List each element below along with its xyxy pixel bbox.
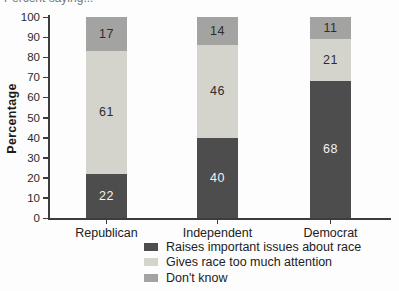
x-axis-category-label: Independent <box>158 226 278 240</box>
y-tick-label: 100 <box>12 10 40 24</box>
y-tick <box>43 137 48 139</box>
legend-label: Raises important issues about race <box>166 240 361 254</box>
y-tick-label: 20 <box>12 171 40 185</box>
legend-swatch <box>144 243 158 251</box>
y-tick-label: 40 <box>12 131 40 145</box>
bar-value-label: 40 <box>197 138 238 218</box>
y-tick <box>43 197 48 199</box>
x-axis-category-label: Democrat <box>271 226 391 240</box>
bar-value-label: 14 <box>197 17 238 45</box>
y-tick-label: 30 <box>12 151 40 165</box>
y-tick-label: 50 <box>12 111 40 125</box>
bar-segment: 61 <box>86 51 127 174</box>
bar-segment: 14 <box>197 17 238 45</box>
bar-value-label: 68 <box>310 81 351 218</box>
figure-caption-clipped: Percent saying... <box>4 0 324 5</box>
legend-label: Don't know <box>166 271 227 285</box>
x-axis-category-label: Republican <box>47 226 167 240</box>
bar-segment: 22 <box>86 174 127 218</box>
bar-value-label: 22 <box>86 174 127 218</box>
y-tick <box>43 218 48 220</box>
bar-value-label: 61 <box>86 51 127 174</box>
bar-value-label: 11 <box>310 17 351 39</box>
y-tick <box>43 57 48 59</box>
y-tick-label: 10 <box>12 191 40 205</box>
y-tick <box>43 97 48 99</box>
legend-swatch <box>144 258 158 266</box>
legend-label: Gives race too much attention <box>166 255 332 269</box>
figure-caption-text: Percent saying... <box>4 0 324 5</box>
x-tick <box>106 220 108 224</box>
y-tick-label: 70 <box>12 70 40 84</box>
bar-value-label: 17 <box>86 17 127 51</box>
x-tick <box>330 220 332 224</box>
legend-item: Raises important issues about race <box>144 239 361 255</box>
y-tick-label: 60 <box>12 90 40 104</box>
y-tick <box>43 177 48 179</box>
bar-value-label: 21 <box>310 39 351 81</box>
bar-segment: 68 <box>310 81 351 218</box>
y-axis <box>48 15 50 218</box>
y-tick <box>43 117 48 119</box>
y-tick <box>43 77 48 79</box>
y-tick-label: 90 <box>12 30 40 44</box>
bar-segment: 11 <box>310 17 351 39</box>
bar-value-label: 46 <box>197 45 238 137</box>
legend: Raises important issues about raceGives … <box>144 239 361 286</box>
y-tick <box>43 157 48 159</box>
bar-segment: 21 <box>310 39 351 81</box>
stacked-bar-chart-figure: Percent saying... Percentage 01020304050… <box>0 0 399 291</box>
y-tick <box>43 37 48 39</box>
bar-segment: 40 <box>197 138 238 218</box>
bar-segment: 46 <box>197 45 238 137</box>
bar-segment: 17 <box>86 17 127 51</box>
x-axis <box>48 218 391 220</box>
legend-swatch <box>144 274 158 282</box>
x-tick <box>217 220 219 224</box>
y-tick-label: 80 <box>12 50 40 64</box>
y-tick-label: 0 <box>12 211 40 225</box>
legend-item: Gives race too much attention <box>144 255 361 271</box>
legend-item: Don't know <box>144 270 361 286</box>
y-tick <box>43 17 48 19</box>
